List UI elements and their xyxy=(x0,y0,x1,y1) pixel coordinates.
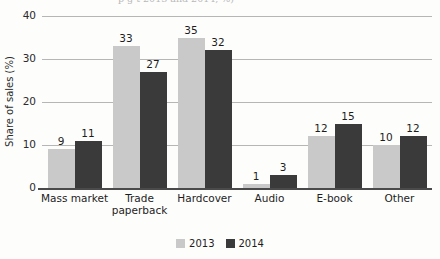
bar-2013-hardcover xyxy=(178,38,205,189)
legend-swatch-2013 xyxy=(176,239,185,248)
bar-2014-other xyxy=(400,136,427,188)
value-label-2013-e-book: 12 xyxy=(308,122,335,134)
bar-2013-mass-market xyxy=(48,149,75,188)
bar-2014-trade-paperback xyxy=(140,72,167,188)
cropped-title: p g t 2013 and 2014, %) xyxy=(0,0,440,9)
value-label-2013-trade-paperback: 33 xyxy=(113,32,140,44)
bar-2014-mass-market xyxy=(75,141,102,188)
legend-swatch-2014 xyxy=(226,239,235,248)
bar-2014-hardcover xyxy=(205,50,232,188)
value-label-2013-other: 10 xyxy=(373,131,400,143)
legend: 20132014 xyxy=(0,238,440,249)
bar-group: 1215 xyxy=(308,16,362,188)
bar-group: 3327 xyxy=(113,16,167,188)
value-label-2013-hardcover: 35 xyxy=(178,24,205,36)
value-label-2013-audio: 1 xyxy=(243,170,270,182)
y-axis-title: Share of sales (%) xyxy=(4,17,15,187)
x-axis-line xyxy=(38,188,432,190)
value-label-2014-e-book: 15 xyxy=(335,110,362,122)
cropped-title-text: p g t 2013 and 2014, %) xyxy=(118,0,234,4)
value-label-2013-mass-market: 9 xyxy=(48,135,75,147)
legend-item-2014[interactable]: 2014 xyxy=(226,238,264,249)
bar-chart: p g t 2013 and 2014, %) 010203040 Share … xyxy=(0,0,440,259)
bar-2013-audio xyxy=(243,184,270,188)
bar-2014-audio xyxy=(270,175,297,188)
value-label-2014-other: 12 xyxy=(400,122,427,134)
value-label-2014-hardcover: 32 xyxy=(205,36,232,48)
category-label-other: Other xyxy=(345,192,440,204)
bar-2013-other xyxy=(373,145,400,188)
bar-2013-trade-paperback xyxy=(113,46,140,188)
value-label-2014-trade-paperback: 27 xyxy=(140,58,167,70)
bar-group: 1012 xyxy=(373,16,427,188)
bar-group: 13 xyxy=(243,16,297,188)
value-label-2014-mass-market: 11 xyxy=(75,127,102,139)
bar-2014-e-book xyxy=(335,124,362,189)
category-label-line: Other xyxy=(345,192,440,204)
value-label-2014-audio: 3 xyxy=(270,161,297,173)
bar-2013-e-book xyxy=(308,136,335,188)
category-label-line: paperback xyxy=(85,204,195,216)
bar-group: 3532 xyxy=(178,16,232,188)
legend-item-2013[interactable]: 2013 xyxy=(176,238,214,249)
legend-label-2013: 2013 xyxy=(189,238,214,249)
bar-group: 911 xyxy=(48,16,102,188)
legend-label-2014: 2014 xyxy=(239,238,264,249)
